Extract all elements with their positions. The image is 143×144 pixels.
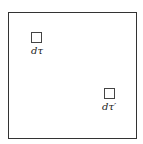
volume-element-1 [31,32,42,43]
volume-element-1-label: dτ [31,46,43,56]
volume-element-2 [104,88,115,99]
region-boundary [8,12,137,139]
volume-element-2-label: dτ′ [102,102,116,112]
